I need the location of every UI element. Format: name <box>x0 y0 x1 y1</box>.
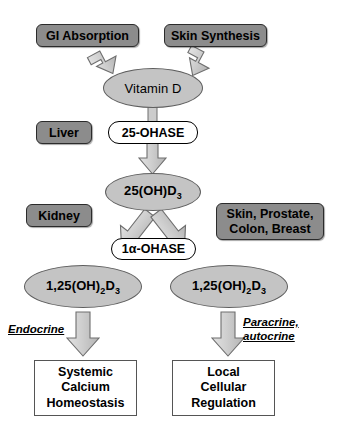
arrow-extrarenal-calcitriol-to-local <box>212 312 244 356</box>
source-label-gi-absorption: GI Absorption <box>46 29 129 43</box>
metabolite-ellipse-calcitriol-extrarenal[interactable]: 1,25(OH)2D3 <box>170 265 288 308</box>
tissue-box-liver[interactable]: Liver <box>36 121 92 144</box>
metabolite-ellipse-25-oh-d3[interactable]: 25(OH)D3 <box>105 173 201 211</box>
outcome-label-local-line1: Local <box>207 365 240 381</box>
outcome-label-systemic-line2: Calcium <box>61 380 110 396</box>
outcome-label-systemic-line3: Homeostasis <box>47 396 125 412</box>
signalling-text-endocrine: Endocrine <box>8 323 64 335</box>
enzyme-pill-1a-ohase[interactable]: 1α-OHASE <box>111 238 196 260</box>
metabolite-label-vitamin-d: Vitamin D <box>124 81 181 96</box>
enzyme-label-1a-ohase: 1α-OHASE <box>122 242 185 256</box>
enzyme-label-25-ohase: 25-OHASE <box>122 126 185 140</box>
tissue-box-extrarenal[interactable]: Skin, Prostate, Colon, Breast <box>216 203 324 240</box>
source-box-gi-absorption[interactable]: GI Absorption <box>36 24 139 47</box>
outcome-box-systemic-calcium-homeostasis[interactable]: Systemic Calcium Homeostasis <box>34 360 137 416</box>
tissue-box-kidney[interactable]: Kidney <box>26 204 92 227</box>
tissue-label-extrarenal-line2: Colon, Breast <box>229 222 310 237</box>
signalling-text-autocrine: autocrine <box>243 329 299 343</box>
outcome-label-local-line3: Regulation <box>191 396 256 412</box>
outcome-label-local-line2: Cellular <box>201 380 247 396</box>
signalling-label-endocrine: Endocrine <box>8 322 64 336</box>
enzyme-pill-25-ohase[interactable]: 25-OHASE <box>108 121 198 144</box>
metabolite-label-calcitriol-renal: 1,25(OH)2D3 <box>46 278 120 296</box>
arrow-renal-calcitriol-to-systemic <box>67 312 99 356</box>
outcome-box-local-cellular-regulation[interactable]: Local Cellular Regulation <box>172 360 275 416</box>
signalling-label-paracrine-autocrine: Paracrine, autocrine <box>243 315 299 343</box>
metabolite-ellipse-calcitriol-renal[interactable]: 1,25(OH)2D3 <box>24 265 142 308</box>
metabolite-ellipse-vitamin-d[interactable]: Vitamin D <box>103 68 203 108</box>
tissue-label-kidney: Kidney <box>38 209 80 223</box>
tissue-label-extrarenal-line1: Skin, Prostate, <box>227 207 314 222</box>
source-label-skin-synthesis: Skin Synthesis <box>171 29 260 43</box>
source-box-skin-synthesis[interactable]: Skin Synthesis <box>164 24 267 47</box>
vitamin-d-pathway-diagram: GI Absorption Skin Synthesis Vitamin D L… <box>0 0 344 439</box>
metabolite-label-calcitriol-extrarenal: 1,25(OH)2D3 <box>192 278 266 296</box>
tissue-label-liver: Liver <box>49 126 79 140</box>
signalling-text-paracrine: Paracrine, <box>243 315 299 329</box>
outcome-label-systemic-line1: Systemic <box>58 365 113 381</box>
metabolite-label-25-oh-d3: 25(OH)D3 <box>124 183 182 201</box>
